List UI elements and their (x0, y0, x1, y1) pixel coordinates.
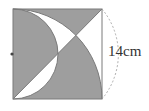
side-length-label: 14cm (108, 43, 141, 60)
midpoint-dot (10, 52, 13, 55)
